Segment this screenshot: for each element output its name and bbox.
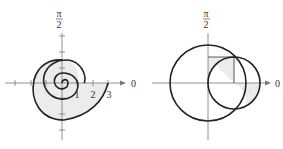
pi-denominator: 2 [57,19,62,30]
tick-label-1: 1 [75,89,80,100]
tick-label-2: 2 [91,89,96,100]
pi-numerator: π [56,8,61,19]
zero-label: 0 [275,78,280,89]
arrow-icon [120,81,126,86]
figure-canvas: π 2 0 1 2 3 π 2 0 [0,0,283,149]
tick-label-3: 3 [107,89,112,100]
pi-numerator: π [203,8,208,19]
zero-label: 0 [131,78,136,89]
pi-denominator: 2 [204,19,209,30]
shaded-region [34,60,108,120]
spiral-graph: π 2 0 1 2 3 [5,8,136,140]
circles-graph: π 2 0 [152,8,280,140]
arrow-icon [265,81,271,86]
